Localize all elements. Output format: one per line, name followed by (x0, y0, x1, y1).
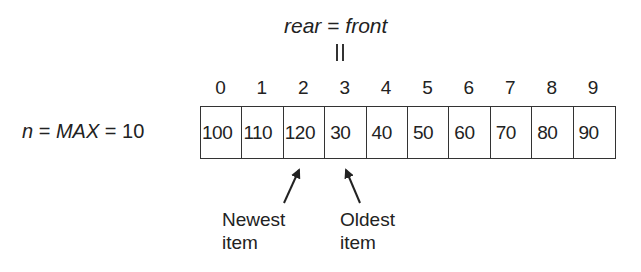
oldest-arrow-icon (346, 170, 360, 203)
note-line: item (222, 231, 285, 254)
oldest-item-note: Oldest item (340, 208, 395, 254)
note-line: Oldest (340, 208, 395, 231)
note-line: item (340, 231, 395, 254)
newest-item-note: Newest item (222, 208, 285, 254)
newest-arrow-icon (284, 170, 299, 203)
note-line: Newest (222, 208, 285, 231)
arrows-layer (0, 0, 641, 272)
